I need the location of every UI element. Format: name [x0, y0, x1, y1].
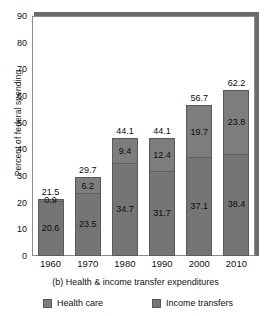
y-tick-label: 70: [17, 64, 27, 74]
legend-swatch-health-care: [43, 299, 52, 308]
stacked-bar: 38.423.8: [223, 90, 249, 256]
bar-segment-income-transfers: 23.5: [76, 192, 100, 255]
bars-layer: 20.60.921.523.56.229.734.79.444.131.712.…: [32, 16, 255, 256]
bar-segment-label-income-transfers: 38.4: [228, 199, 246, 209]
bar-group: 34.79.444.1: [112, 16, 138, 256]
legend-item-health-care: Health care: [43, 298, 103, 308]
bar-segment-label-health-care: 19.7: [190, 127, 208, 137]
bar-segment-health-care: 9.4: [113, 139, 137, 164]
x-tick-label: 1970: [77, 258, 98, 269]
y-tick-label: 90: [17, 11, 27, 21]
y-tick-label: 30: [17, 171, 27, 181]
x-tick-label: 1990: [152, 258, 173, 269]
bar-segment-income-transfers: 38.4: [224, 153, 248, 255]
y-tick-label: 40: [17, 144, 27, 154]
stacked-bar: 31.712.4: [149, 138, 175, 256]
y-tick-label: 20: [17, 198, 27, 208]
x-tick-label: 2000: [189, 258, 210, 269]
y-tick-label: 60: [17, 91, 27, 101]
x-tick-label: 1960: [40, 258, 61, 269]
bar-group: 23.56.229.7: [75, 16, 101, 256]
bar-segment-label-health-care: 12.4: [153, 150, 171, 160]
y-axis-tick-labels: 0102030405060708090: [0, 0, 30, 316]
chart-legend: Health care Income transfers: [0, 298, 271, 314]
bar-segment-health-care: 19.7: [187, 106, 211, 159]
bar-total-label: 44.1: [153, 126, 171, 136]
bar-segment-income-transfers: 20.6: [39, 200, 63, 255]
x-tick-label: 1980: [114, 258, 135, 269]
x-axis-tick-labels: 196019701980199020002010: [32, 258, 255, 274]
bar-total-label: 62.2: [228, 78, 246, 88]
legend-swatch-income-transfers: [152, 299, 161, 308]
bar-segment-label-income-transfers: 31.7: [153, 208, 171, 218]
legend-label-income-transfers: Income transfers: [166, 298, 233, 308]
y-tick-label: 50: [17, 118, 27, 128]
bar-segment-income-transfers: 34.7: [113, 162, 137, 255]
bar-segment-label-income-transfers: 23.5: [79, 219, 97, 229]
bar-segment-income-transfers: 31.7: [150, 170, 174, 255]
stacked-bar: 37.119.7: [186, 105, 212, 256]
bar-segment-health-care: 23.8: [224, 91, 248, 154]
stacked-bar: 20.60.9: [38, 199, 64, 256]
y-tick-label: 0: [22, 251, 27, 261]
bar-group: 37.119.756.7: [186, 16, 212, 256]
bar-segment-label-health-care: 6.2: [81, 181, 94, 191]
stacked-bar: 34.79.4: [112, 138, 138, 256]
legend-label-health-care: Health care: [57, 298, 103, 308]
bar-segment-health-care: 0.9: [39, 200, 63, 202]
bar-group: 38.423.862.2: [223, 16, 249, 256]
x-tick-label: 2010: [226, 258, 247, 269]
bar-group: 31.712.444.1: [149, 16, 175, 256]
bar-total-label: 56.7: [190, 93, 208, 103]
bar-segment-label-income-transfers: 37.1: [190, 201, 208, 211]
bar-segment-income-transfers: 37.1: [187, 156, 211, 255]
bar-total-label: 29.7: [79, 165, 97, 175]
bar-segment-health-care: 6.2: [76, 178, 100, 195]
bar-segment-health-care: 12.4: [150, 139, 174, 172]
plot-frame-shadow-right: [255, 12, 259, 256]
y-tick-label: 80: [17, 38, 27, 48]
legend-item-income-transfers: Income transfers: [152, 298, 233, 308]
bar-segment-label-health-care: 9.4: [119, 146, 132, 156]
y-tick-label: 10: [17, 224, 27, 234]
bar-total-label: 44.1: [116, 126, 134, 136]
bar-segment-label-health-care: 23.8: [228, 117, 246, 127]
bar-segment-label-health-care: 0.9: [44, 195, 57, 205]
bar-segment-label-income-transfers: 20.6: [42, 223, 60, 233]
chart-figure: Percent of federal spending 010203040506…: [0, 0, 271, 316]
bar-segment-label-income-transfers: 34.7: [116, 204, 134, 214]
bar-group: 20.60.921.5: [38, 16, 64, 256]
stacked-bar: 23.56.2: [75, 177, 101, 256]
bar-total-label: 21.5: [42, 187, 60, 197]
figure-caption: (b) Health & income transfer expenditure…: [0, 277, 271, 287]
